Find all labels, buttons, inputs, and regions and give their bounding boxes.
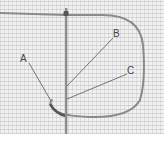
label-b: B [113,28,120,39]
needlework-diagram: A B C [0,0,164,141]
thread-shadow [50,104,66,116]
diagram-svg: A B C [0,0,164,141]
leader-line-a [29,63,51,101]
leader-line-b [67,38,113,86]
needle-eye-knot [64,11,69,16]
needle-highlight [66,8,67,134]
thread-loop [0,13,144,117]
label-a: A [20,53,27,64]
leader-line-c [67,74,127,99]
label-c: C [127,65,134,76]
